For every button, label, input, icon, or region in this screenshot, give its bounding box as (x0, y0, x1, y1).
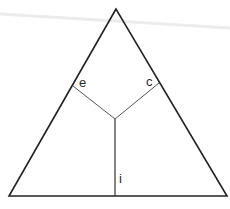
segment-e (73, 86, 115, 119)
outer-triangle (9, 9, 227, 196)
label-e: e (79, 76, 86, 89)
label-i: i (119, 172, 122, 185)
diagram-canvas: e c i (0, 0, 230, 209)
label-c: c (146, 75, 153, 88)
triangle-diagram (0, 0, 230, 209)
scan-artifact-line (0, 14, 230, 28)
